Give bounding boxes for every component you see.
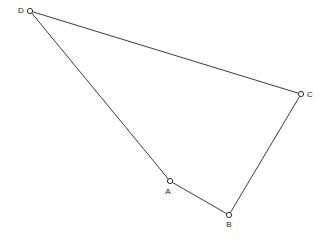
- edge-b-c: [229, 94, 301, 215]
- vertex-label-c: C: [307, 90, 313, 99]
- geometry-canvas: A B C D: [0, 0, 328, 245]
- vertex-marker-c: [298, 91, 303, 96]
- vertex-marker-d: [27, 8, 32, 13]
- edge-d-a: [30, 11, 170, 181]
- vertex-marker-a: [167, 178, 172, 183]
- vertex-label-d: D: [18, 6, 24, 15]
- geometry-figure: A B C D: [0, 0, 328, 245]
- edge-a-b: [170, 181, 229, 215]
- edge-c-d: [30, 11, 301, 94]
- vertex-marker-b: [226, 212, 231, 217]
- vertex-label-b: B: [226, 220, 232, 229]
- vertex-label-a: A: [165, 187, 171, 196]
